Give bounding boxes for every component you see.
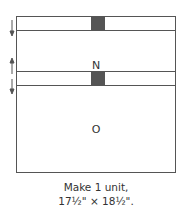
center-square-top: [91, 17, 105, 30]
pressing-arrows: [9, 18, 15, 98]
quilt-unit-diagram: N O: [16, 16, 176, 173]
caption-line-1: Make 1 unit,: [16, 180, 176, 194]
seam-line: [17, 30, 175, 31]
center-square-middle: [91, 72, 105, 85]
block-label-o: O: [17, 123, 175, 136]
arrow-down-icon: [10, 79, 14, 94]
caption: Make 1 unit, 17½" × 18½".: [16, 180, 176, 208]
arrow-up-icon: [10, 58, 14, 74]
caption-line-2: 17½" × 18½".: [16, 194, 176, 208]
arrow-down-icon: [10, 20, 14, 36]
seam-line: [17, 85, 175, 86]
